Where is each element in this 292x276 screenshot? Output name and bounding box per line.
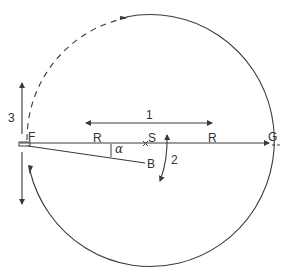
label-g: G [268,131,277,143]
orbit-diagram: F G S B R R α 1 2 3 [0,0,292,276]
label-alpha: α [115,143,123,155]
label-arrow-2: 2 [171,154,178,166]
dashed-arc [27,18,126,140]
label-f: F [28,131,35,143]
label-s: S [148,132,156,144]
label-arrow-3: 3 [8,112,15,124]
arrow-2-path [160,135,167,181]
label-arrow-1: 1 [146,109,153,121]
diagram-canvas [0,0,292,276]
label-b: B [147,158,155,170]
label-r-right: R [208,132,217,144]
line-fb [28,146,145,163]
label-r-left: R [93,132,102,144]
